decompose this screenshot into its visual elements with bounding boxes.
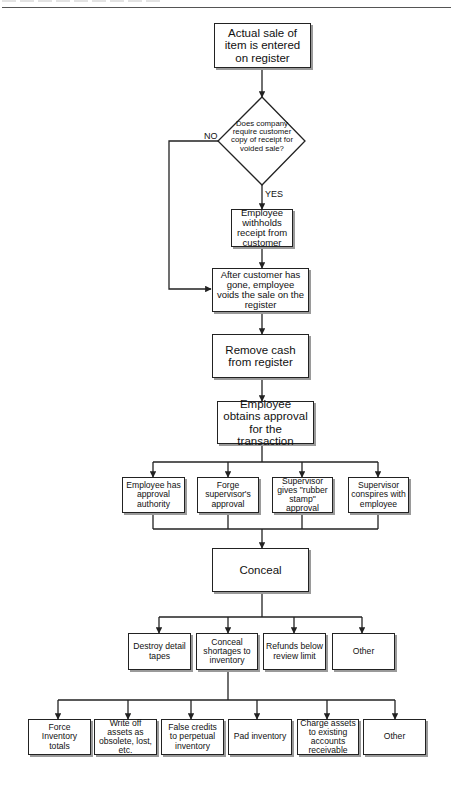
node-conceal-label: Conceal [239,564,281,576]
conceal-method-label: Destroy detail tapes [131,642,188,660]
node-void-sale: After customer has gone, employee voids … [212,268,309,312]
inventory-method-label: Charge assets to existing accounts recei… [300,719,356,755]
conceal-method-label: Conceal shortages to inventory [199,638,255,665]
inventory-method-label: Write off assets as obsolete, lost, etc. [97,719,154,755]
inventory-method-label: Pad inventory [234,732,287,741]
node-inventory-method: Other [363,719,426,755]
node-obtain-approval: Employee obtains approval for the transa… [217,401,314,444]
inventory-method-label: Force Inventory totals [31,723,88,750]
node-approval-method: Forge supervisor's approval [197,477,259,513]
node-approval-method: Supervisor gives "rubber stamp" approval [272,477,333,513]
node-inventory-method: False credits to perpetual inventory [161,719,224,755]
node-withhold-receipt: Employee withholds receipt from customer [231,209,293,247]
node-conceal-method: Other [332,633,395,670]
approval-method-label: Supervisor gives "rubber stamp" approval [275,477,330,513]
node-inventory-method: Charge assets to existing accounts recei… [297,719,359,755]
node-inventory-method: Pad inventory [228,719,292,755]
conceal-method-label: Refunds below review limit [266,642,323,660]
approval-method-label: Employee has approval authority [125,481,182,508]
approval-method-label: Supervisor conspires with employee [351,481,406,508]
node-conceal-method: Destroy detail tapes [128,633,191,670]
node-start-label: Actual sale of item is entered on regist… [217,27,308,63]
node-conceal-method: Refunds below review limit [263,633,326,670]
node-approval-method: Employee has approval authority [122,477,185,513]
decision-label: Does company require customer copy of re… [230,120,294,153]
node-inventory-method: Write off assets as obsolete, lost, etc. [94,719,157,755]
conceal-method-label: Other [353,647,375,656]
node-remove-cash-label: Remove cash from register [215,344,306,368]
node-conceal: Conceal [212,548,309,592]
approval-method-label: Forge supervisor's approval [200,481,256,508]
yes-label: YES [265,189,283,199]
node-withhold-receipt-label: Employee withholds receipt from customer [234,208,290,248]
node-conceal-method: Conceal shortages to inventory [196,633,258,670]
inventory-method-label: False credits to perpetual inventory [164,723,221,750]
node-approval-method: Supervisor conspires with employee [348,477,409,513]
inventory-method-label: Other [384,732,406,741]
node-start: Actual sale of item is entered on regist… [214,23,311,68]
node-inventory-method: Force Inventory totals [28,719,91,755]
no-label: NO [204,131,218,141]
node-obtain-approval-label: Employee obtains approval for the transa… [220,398,311,446]
node-remove-cash: Remove cash from register [212,334,309,378]
node-void-sale-label: After customer has gone, employee voids … [215,270,306,310]
